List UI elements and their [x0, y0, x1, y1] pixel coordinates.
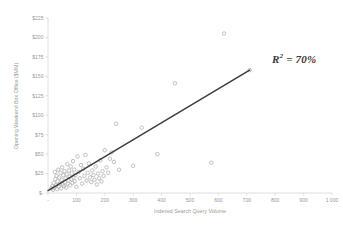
trend-line-group — [48, 70, 250, 191]
x-axis-tick-label: 900 — [299, 197, 308, 203]
scatter-point — [114, 122, 118, 126]
x-axis-title: Indexed Search Query Volume — [154, 208, 226, 214]
scatter-point — [69, 165, 73, 169]
scatter-point — [53, 170, 57, 174]
y-axis-tick-label: $200 — [32, 34, 43, 40]
y-axis-tick-label: $- — [39, 190, 44, 196]
x-axis-tick-label: 100 — [72, 197, 81, 203]
scatter-point — [95, 183, 99, 187]
y-axis-tick-label: $150 — [32, 73, 43, 79]
scatter-point — [100, 180, 104, 184]
scatter-point — [210, 161, 214, 165]
scatter-point — [86, 171, 90, 175]
x-axis-tick-label: 600 — [214, 197, 223, 203]
y-axis-tick-label: $225 — [32, 15, 43, 21]
scatter-point — [85, 179, 89, 183]
scatter-point — [105, 166, 109, 170]
chart-container: $-$25$50$75$100$125$150$175$200$225 -100… — [0, 0, 343, 227]
y-axis-tick-label: $175 — [32, 54, 43, 60]
x-axis-tick-label: 300 — [129, 197, 138, 203]
scatter-point — [66, 162, 70, 166]
x-axis-tick-label: 500 — [186, 197, 195, 203]
scatter-point — [91, 169, 95, 173]
scatter-point — [84, 153, 88, 157]
x-axis-tick-label: 400 — [157, 197, 166, 203]
scatter-point — [96, 172, 100, 176]
scatter-point — [117, 168, 121, 172]
r-squared-value: = 70% — [283, 53, 316, 65]
scatter-point — [89, 180, 93, 184]
y-axis-tick-label: $125 — [32, 93, 43, 99]
scatter-point — [76, 155, 80, 159]
scatter-point — [156, 152, 160, 156]
x-axis: -1002003004005006007008009001 000 — [47, 193, 338, 203]
scatter-point — [108, 157, 112, 161]
scatter-point — [106, 171, 110, 175]
y-axis-title: Opening Weekend Box Office ($MM) — [13, 63, 19, 150]
scatter-point — [83, 174, 87, 178]
x-axis-tick-label: - — [47, 197, 49, 203]
scatter-point — [173, 82, 177, 86]
y-axis-tick-label: $25 — [35, 170, 44, 176]
scatter-point — [101, 169, 105, 173]
scatter-point — [79, 163, 83, 167]
scatter-point — [92, 173, 96, 177]
scatter-point — [103, 148, 107, 152]
scatter-point — [75, 185, 79, 189]
scatter-point — [88, 176, 92, 180]
scatter-plot: $-$25$50$75$100$125$150$175$200$225 -100… — [0, 0, 343, 227]
scatter-point — [60, 166, 64, 170]
scatter-points-group — [50, 32, 252, 192]
scatter-point — [72, 168, 76, 172]
scatter-point — [80, 182, 84, 186]
trend-line — [48, 70, 250, 191]
x-axis-tick-label: 800 — [271, 197, 280, 203]
x-axis-tick-label: 1 000 — [326, 197, 339, 203]
scatter-point — [140, 126, 144, 129]
scatter-point — [70, 172, 74, 176]
r-squared-annotation: R2 = 70% — [272, 52, 316, 65]
x-axis-tick-label: 200 — [101, 197, 110, 203]
scatter-point — [78, 176, 82, 180]
scatter-point — [112, 160, 116, 164]
y-axis-tick-label: $50 — [35, 151, 44, 157]
scatter-point — [67, 169, 71, 173]
scatter-point — [131, 164, 135, 168]
scatter-point — [222, 32, 226, 36]
y-axis: $-$25$50$75$100$125$150$175$200$225 — [32, 15, 48, 196]
r-squared-symbol: R — [272, 53, 280, 65]
scatter-point — [102, 174, 106, 178]
y-axis-tick-label: $75 — [35, 132, 44, 138]
scatter-point — [94, 165, 98, 169]
y-axis-tick-label: $100 — [32, 112, 43, 118]
scatter-point — [71, 159, 75, 163]
x-axis-tick-label: 700 — [243, 197, 252, 203]
scatter-point — [93, 178, 97, 182]
